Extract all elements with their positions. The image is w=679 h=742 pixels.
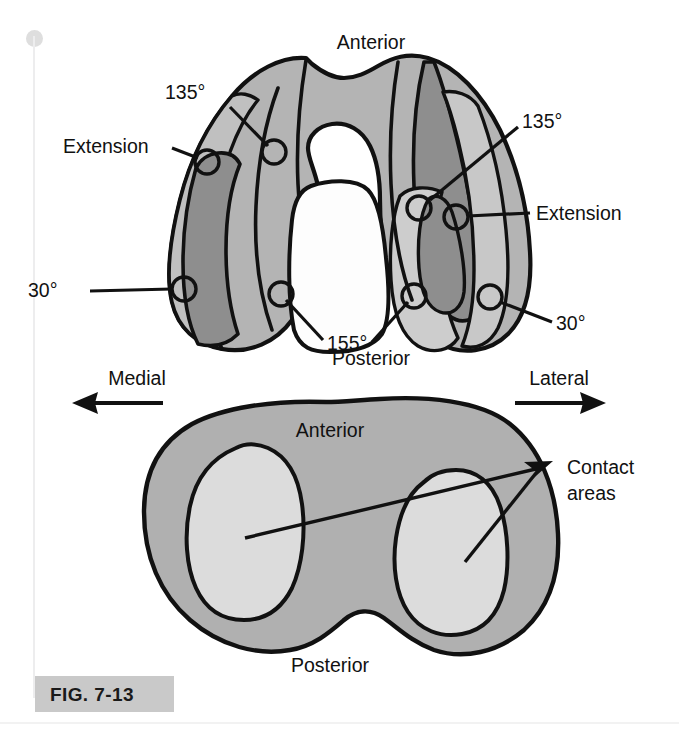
label-upper-anterior: Anterior: [337, 31, 406, 53]
figure-page: Anterior Posterior 135° Extension 30° 15…: [0, 0, 679, 742]
label-medial-135: 135°: [165, 81, 205, 103]
upper-diagram-group: Anterior Posterior 135° Extension 30° 15…: [28, 31, 622, 369]
label-medial-extension: Extension: [63, 135, 149, 157]
label-lateral-135: 135°: [522, 110, 562, 132]
label-contact-areas-line1: Contact: [567, 456, 635, 478]
medial-arrow-icon: [72, 392, 163, 414]
intercondylar-notch: [289, 181, 388, 352]
anatomical-figure: Anterior Posterior 135° Extension 30° 15…: [0, 0, 679, 742]
label-contact-areas-line2: areas: [567, 482, 616, 504]
label-lateral-30: 30°: [556, 312, 586, 334]
label-medial-30: 30°: [28, 279, 58, 301]
lower-diagram-group: Anterior Posterior Contact areas: [144, 398, 635, 676]
contact-area-lateral: [395, 470, 508, 635]
label-medial-direction: Medial: [108, 367, 165, 389]
label-lower-posterior: Posterior: [291, 654, 370, 676]
lateral-arrow-icon: [515, 392, 606, 414]
figure-caption-label: FIG. 7-13: [50, 684, 134, 706]
label-lateral-extension: Extension: [536, 202, 622, 224]
label-lateral-direction: Lateral: [529, 367, 589, 389]
label-center-155: 155°: [327, 332, 367, 354]
label-lower-anterior: Anterior: [296, 419, 365, 441]
contact-area-medial: [187, 444, 304, 620]
